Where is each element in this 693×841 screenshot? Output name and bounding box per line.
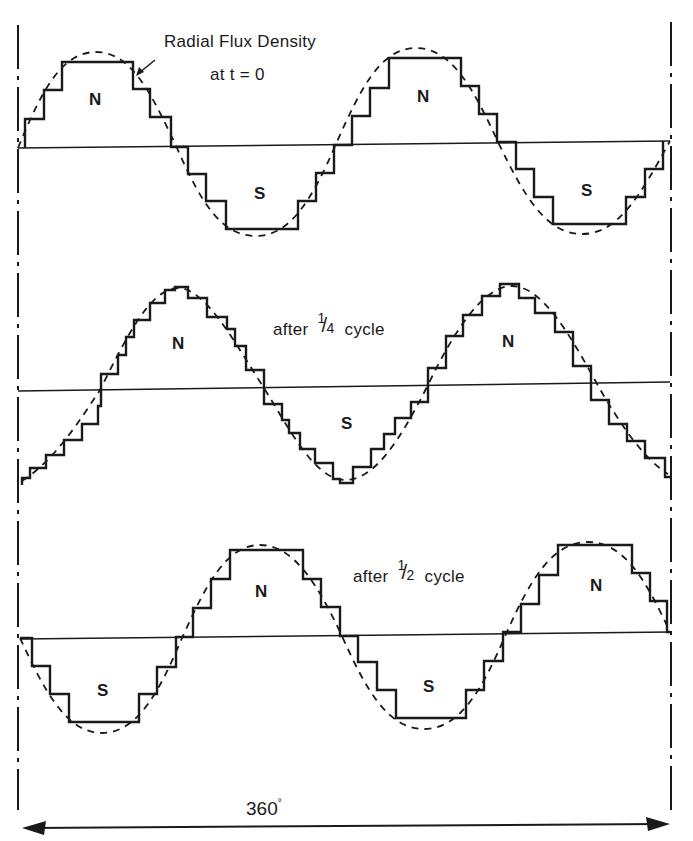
span-label-360-degrees: 360° (246, 797, 282, 820)
right-arrowhead-icon (646, 817, 670, 831)
fraction-half: 1 / 2 (398, 565, 416, 585)
caption-after-half-cycle: after 1 / 2 cycle (353, 565, 465, 587)
pole-label-s: S (97, 681, 108, 701)
wave-t0 (18, 48, 670, 236)
span-dimension (22, 817, 670, 835)
arrowhead-icon (136, 67, 144, 76)
caption-prefix: after (353, 567, 389, 586)
degree-symbol: ° (278, 797, 282, 808)
pole-label-s: S (341, 414, 352, 434)
fraction-denominator: 4 (327, 320, 335, 336)
wave-t0-staircase (25, 58, 663, 229)
fraction-denominator: 2 (407, 567, 415, 583)
pole-label-s: S (423, 677, 434, 697)
wave-half (20, 542, 670, 733)
pole-label-n: N (255, 582, 267, 602)
pole-label-s: S (254, 184, 265, 204)
wave-quarter-baseline (18, 382, 670, 391)
pole-label-n: N (502, 332, 514, 352)
caption-radial-flux-density: Radial Flux Density (164, 32, 316, 52)
left-arrowhead-icon (22, 821, 46, 835)
caption-prefix: after (273, 320, 309, 339)
caption-at-t0: at t = 0 (210, 65, 265, 85)
caption-suffix: cycle (345, 320, 385, 339)
pole-label-n: N (417, 87, 429, 107)
wave-quarter (18, 284, 670, 485)
wave-quarter-staircase (22, 284, 670, 485)
caption-suffix: cycle (425, 567, 465, 586)
span-arrow-line (30, 824, 660, 828)
caption-after-quarter-cycle: after 1 / 4 cycle (273, 318, 385, 340)
fraction-quarter: 1 / 4 (318, 318, 336, 338)
span-value: 360 (246, 798, 278, 819)
pole-label-n: N (172, 334, 184, 354)
pole-label-n: N (590, 576, 602, 596)
pole-label-s: S (581, 181, 592, 201)
pole-label-n: N (89, 90, 101, 110)
